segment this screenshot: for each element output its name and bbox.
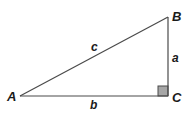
vertex-label-b: B [172, 9, 181, 24]
side-label-b: b [90, 98, 97, 112]
vertex-label-c: C [172, 90, 182, 105]
side-c-hypotenuse [20, 17, 168, 96]
side-label-c: c [91, 40, 98, 54]
right-angle-marker [158, 86, 168, 96]
right-triangle-diagram: A B C c a b [0, 0, 187, 113]
vertex-label-a: A [6, 89, 16, 104]
side-label-a: a [172, 51, 179, 65]
